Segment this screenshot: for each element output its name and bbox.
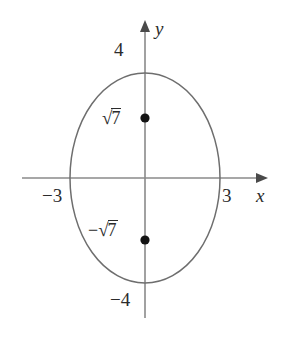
upper-focus-label: √7	[102, 108, 121, 127]
y-axis-arrow-icon	[140, 20, 150, 32]
focus-point-upper	[140, 113, 149, 122]
x-axis-arrow-icon	[256, 173, 268, 183]
lower-focus-label: −√7	[88, 220, 118, 239]
y-axis-tick-label-negative-4: −4	[110, 290, 130, 309]
x-axis-tick-label-3: 3	[222, 186, 232, 205]
x-axis-tick-label-negative-3: −3	[42, 186, 62, 205]
upper-focus-radicand: 7	[111, 108, 121, 127]
focus-point-lower	[140, 235, 149, 244]
lower-focus-sign: −	[88, 220, 98, 240]
y-axis-label: y	[155, 19, 163, 38]
lower-focus-radicand: 7	[108, 220, 118, 239]
x-axis-label: x	[256, 186, 264, 205]
coordinate-plane-svg	[0, 0, 282, 340]
y-axis-tick-label-4: 4	[114, 40, 124, 59]
ellipse-figure: 4 −4 −3 3 y x √7 −√7	[0, 0, 282, 340]
